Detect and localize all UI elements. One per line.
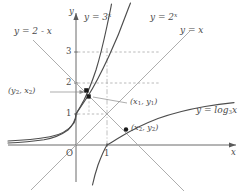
label-line-identity: y = x (180, 26, 203, 35)
point-label-y2-x2-c: ) (32, 86, 35, 95)
label-curve-log3-text: y = log3x (196, 105, 237, 115)
label-curve-exp3-text: y = 3 (84, 12, 108, 22)
point-label-x2-y2-c: ) (155, 123, 158, 132)
origin-label: O (66, 149, 73, 158)
label-curve-exp2: y = 2x (150, 12, 177, 22)
x-axis-label: x (231, 148, 236, 157)
curve-exp3-path (8, 4, 112, 143)
point-label-x2-y2-a: (x (131, 123, 139, 132)
point-p2-marker (124, 127, 128, 131)
point-label-x1-y1: (x1, y1) (130, 98, 157, 106)
tick-label-y-3: 3 (66, 47, 71, 56)
label-curve-exp2-text: y = 2 (150, 12, 174, 22)
point-label-y2-x2-b: , x (19, 86, 29, 95)
straight-lines (31, 31, 193, 191)
line-y-equals-2-minus-x (33, 40, 193, 191)
tick-label-y-2: 2 (66, 78, 71, 87)
point-label-x1-y1-b: , y (141, 97, 151, 106)
label-curve-exp2-exponent: x (174, 11, 177, 18)
label-curve-exp3-exponent: x (108, 11, 111, 18)
label-curve-log3-arg: x (232, 105, 237, 115)
point-label-x2-y2: (x2, y2) (131, 124, 158, 132)
point-label-x1-y1-a: (x (130, 97, 138, 106)
point-label-y2-x2-a: (y (8, 86, 16, 95)
point-label-x1-y1-c: ) (154, 97, 157, 106)
point-label-y2-x2: (y2, x2) (8, 87, 35, 95)
label-line-sum: y = 2 - x (14, 27, 52, 36)
label-curve-log3: y = log3x (196, 106, 237, 115)
point-p3-marker (84, 88, 88, 92)
point-p1-marker (87, 94, 91, 98)
curve-exp3 (8, 4, 112, 143)
curve-exp2-path (8, 3, 131, 141)
y-axis-arrow (73, 13, 78, 20)
marked-points (84, 88, 128, 132)
line-y-equals-x (31, 31, 190, 190)
point-label-x2-y2-b: , y (142, 123, 152, 132)
axes (8, 13, 236, 182)
tick-label-x-1: 1 (104, 149, 109, 158)
tick-label-y-1: 1 (66, 109, 71, 118)
leader-p1 (93, 97, 127, 103)
label-curve-exp3: y = 3x (84, 12, 111, 22)
y-axis-label: y (69, 7, 74, 16)
math-figure: y = 3x y = 2x y = 2 - x y = x y = log3x … (0, 0, 249, 191)
curve-exp2 (8, 3, 131, 141)
